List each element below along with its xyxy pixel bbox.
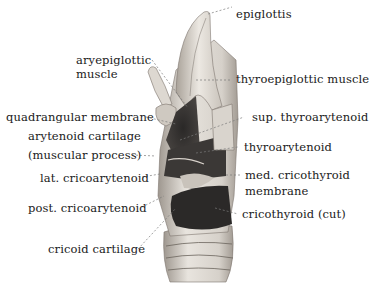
leader-epiglottis: [208, 7, 232, 14]
label-arytenoid-cartilage-line1: arytenoid cartilage: [28, 130, 141, 143]
label-med-cricothyroid-line2: membrane: [245, 185, 308, 198]
label-arytenoid-cartilage-line2: (muscular process): [28, 149, 141, 162]
label-sup-thyroarytenoid: sup. thyroarytenoid: [252, 111, 368, 124]
label-quadrangular-membrane: quadrangular membrane: [6, 111, 154, 124]
label-aryepiglottic-line2: muscle: [76, 68, 118, 81]
label-thyroarytenoid: thyroarytenoid: [244, 141, 332, 154]
label-cricothyroid-cut: cricothyroid (cut): [242, 208, 346, 221]
label-lat-cricoarytenoid: lat. cricoarytenoid: [40, 172, 149, 185]
label-post-cricoarytenoid: post. cricoarytenoid: [28, 202, 147, 215]
label-thyroepiglottic-muscle: thyroepiglottic muscle: [236, 73, 369, 86]
label-cricoid-cartilage: cricoid cartilage: [48, 243, 145, 256]
label-epiglottis: epiglottis: [236, 8, 292, 21]
label-med-cricothyroid-line1: med. cricothyroid: [245, 169, 350, 182]
label-aryepiglottic-line1: aryepiglottic: [76, 54, 151, 67]
